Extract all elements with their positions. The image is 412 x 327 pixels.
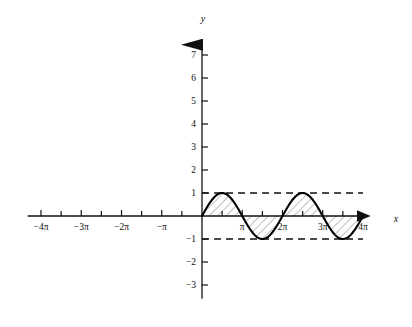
y-tick-label: 1 [191, 188, 196, 198]
x-tick-label: π [240, 222, 245, 232]
x-tick-label: −4π [34, 222, 49, 232]
plot-canvas: −4π−3π−2π−ππ2π3π4π 7654321−1−2−3 x y [0, 0, 412, 327]
x-tick-label: −2π [114, 222, 129, 232]
y-tick-label: 6 [191, 73, 196, 83]
x-tick-label: 4π [358, 222, 368, 232]
figure-background [0, 0, 412, 327]
y-tick-label: 2 [191, 165, 196, 175]
sine-curve-figure: −4π−3π−2π−ππ2π3π4π 7654321−1−2−3 x y [0, 0, 412, 327]
y-tick-label: −1 [186, 234, 196, 244]
x-tick-label: 3π [318, 222, 328, 232]
y-axis-label: y [200, 13, 206, 24]
x-axis-label: x [393, 213, 399, 224]
x-tick-label: 2π [278, 222, 288, 232]
x-tick-label: −π [157, 222, 167, 232]
x-tick-label: −3π [74, 222, 89, 232]
y-tick-label: 7 [191, 50, 196, 60]
y-tick-label: 5 [191, 96, 196, 106]
y-tick-label: −3 [186, 280, 196, 290]
y-tick-label: 4 [191, 119, 196, 129]
y-tick-label: −2 [186, 257, 196, 267]
y-tick-label: 3 [191, 142, 196, 152]
